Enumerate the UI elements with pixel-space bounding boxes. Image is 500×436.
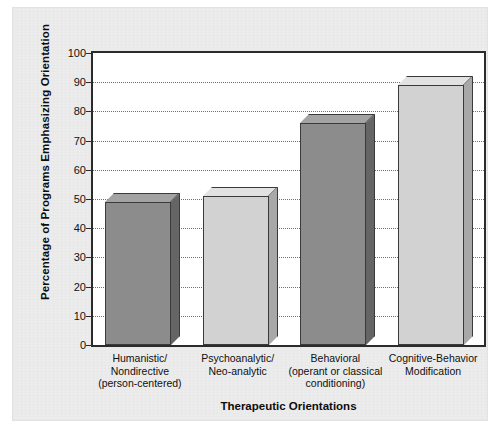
- y-axis-tick-label: 50: [74, 194, 86, 204]
- y-axis-tick-label: 20: [74, 282, 86, 292]
- y-axis-tick-label: 90: [74, 77, 86, 87]
- x-axis-category-label: Psychoanalytic/Neo-analytic: [183, 352, 293, 377]
- y-axis-tick-label: 30: [74, 252, 86, 262]
- x-axis-category-label-line: Behavioral: [281, 352, 391, 365]
- bar-front-face: [203, 196, 269, 345]
- y-axis-tick-label: 40: [74, 223, 86, 233]
- y-axis-tick-label: 10: [74, 311, 86, 321]
- bar[interactable]: [398, 76, 464, 345]
- bar-side-face: [464, 76, 473, 345]
- y-axis-tick-label: 80: [74, 106, 86, 116]
- x-axis-category-label-line: Cognitive-Behavior: [378, 352, 488, 365]
- x-axis-category-label-line: conditioning): [281, 377, 391, 390]
- bar[interactable]: [203, 187, 269, 345]
- bar-series: [93, 53, 484, 345]
- bar[interactable]: [105, 193, 171, 345]
- x-axis-category-label-line: Psychoanalytic/: [183, 352, 293, 365]
- bar-side-face: [171, 193, 180, 345]
- bar-top-face: [398, 76, 473, 85]
- bar-side-face: [269, 187, 278, 345]
- chart-figure: Percentage of Programs Emphasizing Orien…: [0, 0, 500, 436]
- y-axis-tick-label: 100: [68, 48, 86, 58]
- bar-front-face: [105, 202, 171, 345]
- x-axis-title: Therapeutic Orientations: [91, 400, 486, 412]
- x-axis-category-label-line: (person-centered): [85, 377, 195, 390]
- x-axis-category-label-line: (operant or classical: [281, 365, 391, 378]
- x-axis-category-label-line: Nondirective: [85, 365, 195, 378]
- plot-area: [91, 51, 486, 347]
- x-axis-category-label: Behavioral(operant or classicalcondition…: [281, 352, 391, 390]
- bar-front-face: [398, 85, 464, 345]
- x-axis-category-labels: Humanistic/Nondirective(person-centered)…: [91, 352, 486, 396]
- x-axis-category-label-line: Humanistic/: [85, 352, 195, 365]
- x-axis-category-label: Humanistic/Nondirective(person-centered): [85, 352, 195, 390]
- bar-top-face: [105, 193, 180, 202]
- x-axis-category-label-line: Modification: [378, 365, 488, 378]
- y-axis-tick-label: 70: [74, 136, 86, 146]
- y-axis-title: Percentage of Programs Emphasizing Orien…: [39, 12, 51, 312]
- y-axis-tick-labels: 0102030405060708090100: [53, 51, 86, 347]
- chart-card-background: Percentage of Programs Emphasizing Orien…: [13, 8, 487, 420]
- bar-front-face: [300, 123, 366, 345]
- x-axis-category-label-line: Neo-analytic: [183, 365, 293, 378]
- x-axis-category-label: Cognitive-BehaviorModification: [378, 352, 488, 377]
- bar-top-face: [203, 187, 278, 196]
- bar-side-face: [366, 114, 375, 345]
- bar[interactable]: [300, 114, 366, 345]
- bar-top-face: [300, 114, 375, 123]
- y-axis-tick-label: 60: [74, 165, 86, 175]
